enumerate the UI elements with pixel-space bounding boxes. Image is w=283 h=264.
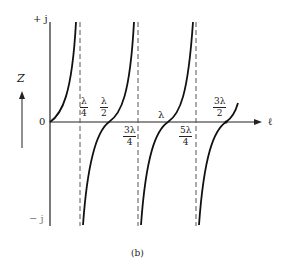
y-top-label: + j [33, 14, 48, 24]
tick-lambda-quarter: λ4 [80, 97, 88, 118]
figure-caption: (b) [131, 248, 144, 258]
tick-five-lambda-quarter: 5λ4 [179, 126, 192, 147]
origin-label: 0 [39, 117, 45, 127]
tan-curves [50, 22, 238, 225]
y-axis-label: Z [17, 74, 25, 84]
tick-lambda-half: λ2 [100, 97, 108, 118]
x-axis-arrow-icon [254, 119, 262, 125]
tick-lambda: λ [158, 110, 164, 120]
impedance-plot [0, 0, 283, 264]
y-bottom-label: − j [29, 214, 44, 224]
z-arrow-head-icon [19, 91, 25, 99]
tick-three-lambda-quarter: 3λ4 [123, 126, 136, 147]
x-axis-label: ℓ [268, 117, 273, 127]
tick-three-lambda-half: 3λ2 [213, 97, 226, 118]
